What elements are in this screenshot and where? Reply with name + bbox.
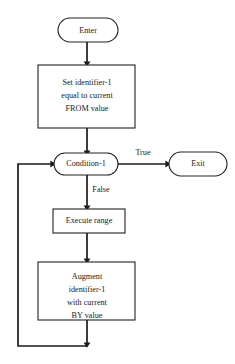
node-set-identifier[interactable]: Set identifier-1 equal to current FROM v… — [38, 65, 135, 128]
augment-line3: with current — [67, 298, 108, 307]
condition-label: Condition-1 — [66, 159, 106, 168]
node-condition[interactable]: Condition-1 — [54, 153, 118, 175]
augment-line4: BY value — [72, 311, 103, 320]
node-exit[interactable]: Exit — [169, 152, 227, 176]
node-execute-range[interactable]: Execute range — [53, 209, 125, 233]
node-enter[interactable]: Enter — [58, 18, 118, 42]
exit-label: Exit — [191, 159, 205, 168]
enter-label: Enter — [79, 26, 97, 35]
augment-line2: identifier-1 — [69, 285, 106, 294]
node-augment[interactable]: Augment identifier-1 with current BY val… — [38, 262, 135, 320]
set-identifier-line1: Set identifier-1 — [62, 78, 111, 87]
flowchart-canvas: Enter Set identifier-1 equal to current … — [0, 0, 235, 364]
execute-range-label: Execute range — [66, 216, 113, 225]
set-identifier-line3: FROM value — [66, 104, 109, 113]
flowchart-diagram: Enter Set identifier-1 equal to current … — [0, 0, 235, 364]
set-identifier-line2: equal to current — [61, 91, 113, 100]
edge-label-false: False — [92, 185, 110, 194]
augment-line1: Augment — [72, 272, 103, 281]
edge-label-true: True — [135, 148, 151, 157]
